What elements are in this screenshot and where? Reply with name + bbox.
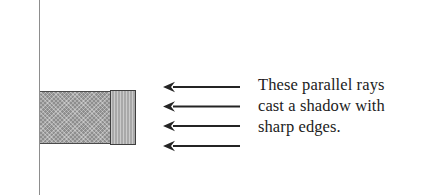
ray-arrowhead-icon [163,82,175,92]
caption-line-1: These parallel rays [258,74,443,95]
caption-line-2: cast a shadow with [258,95,443,116]
ray-arrowhead-icon [163,121,175,131]
shadow-region [40,91,110,144]
sharp-shadow-diagram: These parallel rays cast a shadow with s… [0,0,445,195]
occluding-object [110,90,136,145]
ray-arrowhead-icon [163,141,175,151]
ray-arrowhead-icon [163,101,175,111]
caption-line-3: sharp edges. [258,116,443,137]
caption-text: These parallel rays cast a shadow with s… [258,74,443,137]
